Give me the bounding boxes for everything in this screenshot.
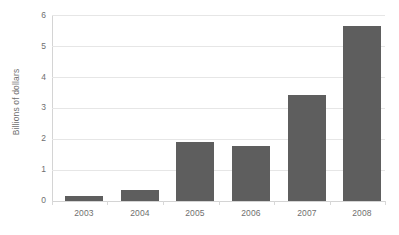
bar-2005 [176,142,214,201]
bar-chart: Billions of dollars 6 5 4 3 2 1 0 [0,0,399,235]
x-axis-tick-labels: 2003 2004 2005 2006 2007 2008 [52,207,385,223]
x-tick-label-2003: 2003 [56,207,112,219]
y-tick-label: 0 [24,196,46,205]
bar-2003 [65,196,103,201]
x-tick-mark [385,201,386,205]
bar-2007 [288,95,326,201]
x-tick-mark [330,201,331,205]
x-tick-mark [274,201,275,205]
x-tick-label-2007: 2007 [279,207,335,219]
y-tick-label: 4 [24,73,46,82]
y-tick-label: 5 [24,42,46,51]
y-tick-label: 1 [24,165,46,174]
bar-2004 [121,190,159,201]
y-tick-label: 3 [24,103,46,112]
y-tick-label: 2 [24,134,46,143]
bar-2006 [232,146,270,201]
x-tick-label-2004: 2004 [112,207,168,219]
x-tick-mark [107,201,108,205]
x-tick-mark [163,201,164,205]
bars-layer [52,15,385,201]
x-tick-mark [219,201,220,205]
x-tick-label-2006: 2006 [223,207,279,219]
y-axis-tick-labels: 6 5 4 3 2 1 0 [20,0,46,235]
bar-2008 [343,26,381,201]
x-tick-label-2005: 2005 [167,207,223,219]
x-tick-label-2008: 2008 [334,207,390,219]
y-tick-label: 6 [24,11,46,20]
x-tick-mark [52,201,53,205]
